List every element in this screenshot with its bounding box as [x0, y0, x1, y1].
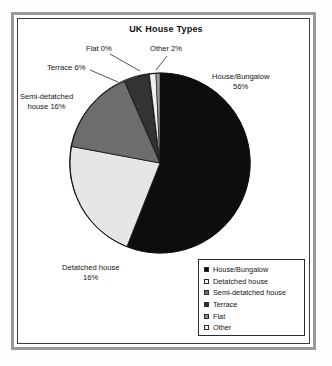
legend-label-semi-detatched-house: Semi-detatched house	[213, 288, 286, 297]
legend-item-terrace[interactable]: Terrace	[204, 299, 304, 311]
slice-label-semi-line1: Semi-detatched	[20, 92, 73, 102]
legend-swatch-detatched-house	[204, 279, 209, 284]
leader-line-terrace	[90, 70, 118, 82]
leader-line-other	[156, 56, 167, 70]
leader-line-flat	[110, 54, 140, 71]
slice-label-detatched-line1: Detatched house	[62, 263, 119, 273]
legend-swatch-terrace	[204, 302, 209, 307]
slice-label-semi-line2: house 16%	[20, 102, 73, 112]
legend-label-terrace: Terrace	[213, 300, 237, 309]
slice-label-semi-detatched: Semi-detatched house 16%	[20, 92, 73, 111]
slice-label-detatched-house: Detatched house 16%	[62, 263, 119, 282]
slice-label-detatched-line2: 16%	[62, 273, 119, 283]
slice-label-terrace-text: Terrace 6%	[47, 63, 85, 72]
legend-item-other[interactable]: Other	[204, 322, 304, 334]
slice-label-flat-text: Flat 0%	[86, 44, 112, 53]
legend-item-house-bungalow[interactable]: House/Bungalow	[204, 264, 304, 276]
slice-label-house-line2: 56%	[212, 82, 269, 92]
legend-item-semi-detatched-house[interactable]: Semi-detatched house	[204, 287, 304, 299]
slice-label-house-line1: House/Bungalow	[212, 72, 269, 82]
legend-label-other: Other	[213, 323, 231, 332]
legend-swatch-semi-detatched-house	[204, 290, 209, 295]
chart-legend: House/Bungalow Detatched house Semi-deta…	[198, 259, 305, 336]
legend-swatch-flat	[204, 314, 209, 319]
legend-label-house-bungalow: House/Bungalow	[213, 265, 268, 274]
legend-item-flat[interactable]: Flat	[204, 310, 304, 322]
slice-label-house-bungalow: House/Bungalow 56%	[212, 72, 269, 91]
legend-label-detatched-house: Detatched house	[213, 277, 268, 286]
chart-figure: UK House Types Flat 0% Other 2% Terrace …	[0, 0, 332, 366]
slice-label-terrace: Terrace 6%	[47, 63, 85, 73]
slice-label-other-text: Other 2%	[150, 44, 182, 53]
legend-label-flat: Flat	[213, 312, 225, 321]
legend-swatch-other	[204, 325, 209, 330]
legend-swatch-house-bungalow	[204, 267, 209, 272]
legend-item-detatched-house[interactable]: Detatched house	[204, 276, 304, 288]
slice-label-other: Other 2%	[150, 44, 182, 54]
slice-label-flat: Flat 0%	[86, 44, 112, 54]
